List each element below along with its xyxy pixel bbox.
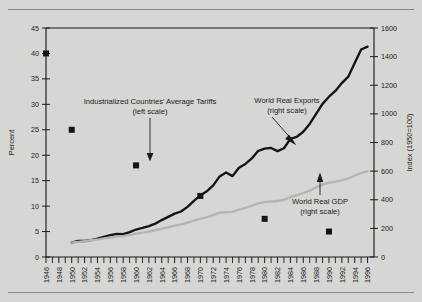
x-tick-label: 1978 bbox=[248, 267, 257, 283]
tariffs-arrow-head bbox=[147, 153, 154, 162]
x-tick-label: 1962 bbox=[145, 267, 154, 283]
gdp-arrow-head bbox=[317, 173, 324, 183]
x-tick-label: 1992 bbox=[338, 267, 347, 283]
x-tick-label: 1966 bbox=[170, 267, 179, 283]
annotation-tariffs-line2: (left scale) bbox=[132, 107, 167, 116]
x-tick-label: 1946 bbox=[42, 267, 51, 283]
x-tick-label: 1954 bbox=[93, 267, 102, 283]
x-tick-label: 1950 bbox=[68, 267, 77, 283]
left-tick-label: 40 bbox=[31, 49, 39, 58]
left-tick-label: 25 bbox=[31, 125, 39, 134]
left-tick-label: 0 bbox=[35, 253, 39, 262]
right-tick-label: 1000 bbox=[381, 109, 397, 118]
tariff-data-marker bbox=[326, 229, 332, 235]
tariff-data-marker bbox=[197, 193, 203, 199]
right-tick-label: 1200 bbox=[381, 81, 397, 90]
annotation-tariffs-line1: Industrialized Countries' Average Tariff… bbox=[84, 97, 217, 106]
tariff-data-marker bbox=[43, 50, 49, 56]
chart-plot-area: 051015202530354045Percent 02004006008001… bbox=[0, 10, 422, 292]
x-tick-label: 1964 bbox=[158, 267, 167, 283]
x-tick-label: 1960 bbox=[132, 267, 141, 283]
left-tick-label: 45 bbox=[31, 24, 39, 33]
x-tick-label: 1970 bbox=[196, 267, 205, 283]
right-tick-label: 1600 bbox=[381, 24, 397, 33]
x-tick-label: 1952 bbox=[80, 267, 89, 283]
annotation-gdp-line2: (right scale) bbox=[300, 207, 340, 216]
x-tick-label: 1974 bbox=[222, 267, 231, 283]
right-tick-label: 0 bbox=[381, 253, 385, 262]
tariff-data-marker bbox=[69, 127, 75, 133]
x-tick-label: 1948 bbox=[55, 267, 64, 283]
right-axis-title: Index (1950=100) bbox=[405, 113, 414, 171]
annotation-exports: World Real Exports(right scale) bbox=[254, 96, 319, 145]
annotation-gdp-line1: World Real GDP bbox=[292, 197, 348, 206]
figure-container: 051015202530354045Percent 02004006008001… bbox=[0, 0, 422, 302]
x-tick-label: 1980 bbox=[260, 267, 269, 283]
annotation-exports-line1: World Real Exports bbox=[254, 96, 319, 105]
x-tick-label: 1976 bbox=[235, 267, 244, 283]
right-tick-label: 1400 bbox=[381, 52, 397, 61]
annotation-exports-line2: (right scale) bbox=[267, 106, 307, 115]
x-tick-label: 1982 bbox=[273, 267, 282, 283]
x-tick-label: 1986 bbox=[299, 267, 308, 283]
tariff-data-marker bbox=[133, 162, 139, 168]
annotations-group: Industrialized Countries' Average Tariff… bbox=[84, 96, 348, 216]
right-axis: 02004006008001000120014001600Index (1950… bbox=[46, 24, 414, 262]
left-axis: 051015202530354045Percent bbox=[7, 24, 50, 262]
x-tick-label: 1990 bbox=[325, 267, 334, 283]
x-tick-label: 1958 bbox=[119, 267, 128, 283]
tariff-data-marker bbox=[262, 216, 268, 222]
x-tick-label: 1996 bbox=[363, 267, 372, 283]
left-tick-label: 35 bbox=[31, 74, 39, 83]
line-chart: 051015202530354045Percent 02004006008001… bbox=[0, 10, 422, 292]
right-tick-label: 800 bbox=[381, 138, 393, 147]
x-tick-label: 1988 bbox=[312, 267, 321, 283]
right-tick-label: 400 bbox=[381, 195, 393, 204]
right-tick-label: 200 bbox=[381, 224, 393, 233]
x-axis: 1946194819501952195419561958196019621964… bbox=[42, 257, 374, 283]
annotation-tariffs: Industrialized Countries' Average Tariff… bbox=[84, 97, 217, 162]
left-tick-label: 20 bbox=[31, 151, 39, 160]
left-tick-label: 15 bbox=[31, 176, 39, 185]
left-tick-label: 10 bbox=[31, 202, 39, 211]
left-tick-label: 5 bbox=[35, 227, 39, 236]
right-tick-label: 600 bbox=[381, 167, 393, 176]
x-tick-label: 1972 bbox=[209, 267, 218, 283]
left-axis-title: Percent bbox=[7, 130, 16, 155]
x-tick-label: 1968 bbox=[183, 267, 192, 283]
bottom-rule bbox=[8, 292, 414, 293]
x-tick-label: 1994 bbox=[351, 267, 360, 283]
left-tick-label: 30 bbox=[31, 100, 39, 109]
x-tick-label: 1956 bbox=[106, 267, 115, 283]
x-tick-label: 1984 bbox=[286, 267, 295, 283]
